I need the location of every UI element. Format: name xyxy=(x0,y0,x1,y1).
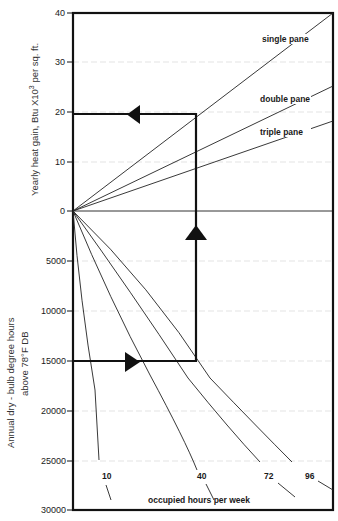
plot-frame xyxy=(73,13,333,510)
curve-72-label: 72 xyxy=(264,471,274,481)
tick-40: 40 xyxy=(55,8,65,18)
arrow-up-icon xyxy=(185,225,207,240)
curve-40-hours xyxy=(73,211,197,470)
curve-40-label: 40 xyxy=(197,471,207,481)
heat-gain-nomograph: 40 30 20 10 0 5000 10000 15000 20000 250… xyxy=(0,0,338,521)
tick-10000: 10000 xyxy=(41,306,66,316)
tick-15000: 15000 xyxy=(41,356,66,366)
curve-10-label: 10 xyxy=(102,471,112,481)
tick-0: 0 xyxy=(60,206,65,216)
occupied-hours-curves xyxy=(73,211,333,500)
tick-10: 10 xyxy=(55,157,65,167)
curve-96-label: 96 xyxy=(305,471,315,481)
single-pane-label: single pane xyxy=(262,34,309,44)
arrow-right-icon xyxy=(125,352,140,372)
lower-y-axis-title-line1: Annual dry - bulb degree hours xyxy=(5,317,16,448)
upper-y-axis-title: Yearly heat gain, Btu X103 per sq. ft. xyxy=(28,43,40,196)
curve-10-hours xyxy=(73,211,99,460)
double-pane-line xyxy=(73,86,333,211)
upper-y-tick-labels: 40 30 20 10 0 xyxy=(55,8,65,216)
curve-96-hours xyxy=(73,211,292,462)
lower-y-tick-labels: 5000 10000 15000 20000 25000 30000 xyxy=(41,256,66,515)
grid-lines xyxy=(73,62,333,461)
triple-pane-label: triple pane xyxy=(260,127,303,137)
tick-5000: 5000 xyxy=(46,256,66,266)
tick-30000: 30000 xyxy=(41,505,66,515)
curve-72-hours xyxy=(73,211,260,462)
arrow-left-icon xyxy=(127,105,140,124)
tick-25000: 25000 xyxy=(41,456,66,466)
tick-20000: 20000 xyxy=(41,406,66,416)
x-axis-title: occupied hours per week xyxy=(148,495,250,505)
double-pane-label: double pane xyxy=(260,94,310,104)
tick-20: 20 xyxy=(55,107,65,117)
tick-30: 30 xyxy=(55,57,65,67)
lower-y-axis-title-line2: above 78°F DB xyxy=(19,331,30,396)
